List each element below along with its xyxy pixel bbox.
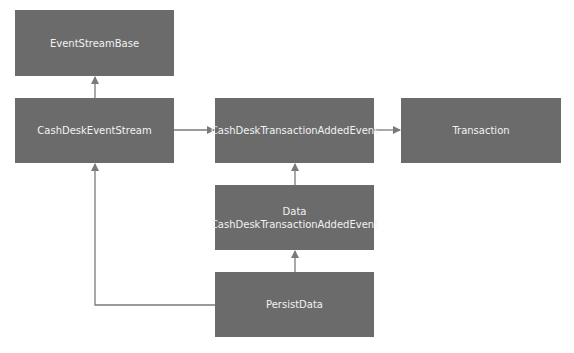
node-label: CashDeskEventStream: [37, 124, 151, 137]
node-transaction: Transaction: [401, 98, 561, 163]
node-event-stream-base: EventStreamBase: [15, 10, 174, 76]
node-data-cash-desk-transaction-added-event: Data CashDeskTransactionAddedEvent: [215, 185, 374, 250]
node-label: PersistData: [266, 298, 323, 311]
edge-persist-to-stream: [95, 164, 215, 305]
node-cash-desk-event-stream: CashDeskEventStream: [15, 98, 174, 163]
node-label: CashDeskTransactionAddedEvent: [211, 124, 378, 137]
node-label-line2: CashDeskTransactionAddedEvent: [211, 218, 378, 231]
node-label: EventStreamBase: [50, 37, 139, 50]
node-label-line1: Data: [283, 205, 307, 218]
node-label: Transaction: [452, 124, 509, 137]
node-persist-data: PersistData: [215, 272, 374, 337]
node-cash-desk-transaction-added-event: CashDeskTransactionAddedEvent: [215, 98, 374, 163]
